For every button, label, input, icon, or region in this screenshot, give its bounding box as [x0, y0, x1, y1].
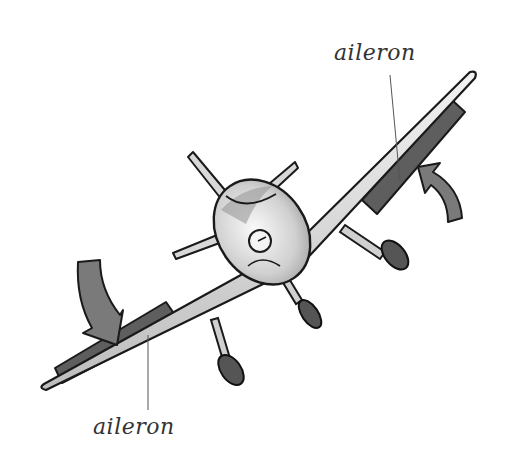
down-arrow-icon: [78, 260, 123, 345]
propeller-spinner: [249, 230, 271, 252]
left-landing-gear: [211, 318, 249, 390]
up-arrow-icon: [418, 163, 462, 222]
aileron-diagram: aileron aileron: [0, 0, 507, 460]
top-aileron-label: aileron: [334, 40, 416, 65]
bottom-aileron-label: aileron: [93, 414, 175, 439]
right-landing-gear: [340, 225, 414, 274]
airplane-illustration: [0, 0, 507, 460]
